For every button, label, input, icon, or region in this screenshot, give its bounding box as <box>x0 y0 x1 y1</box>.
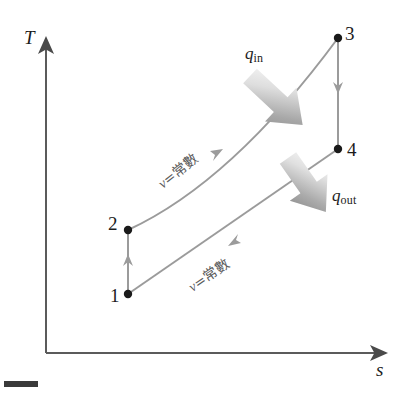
cycle-paths <box>128 38 338 294</box>
caption-rule <box>4 381 38 387</box>
q-out-label: qout <box>332 187 356 204</box>
state-point-1 <box>124 290 132 298</box>
q-out-subscript: out <box>341 193 357 207</box>
q-in-subscript: in <box>254 51 264 65</box>
state-point-3 <box>334 34 342 42</box>
q-in-symbol: q <box>245 44 254 63</box>
state-label-2: 2 <box>108 214 118 233</box>
state-point-2 <box>124 226 132 234</box>
q-in-label: qin <box>245 45 263 62</box>
state-label-4: 4 <box>347 140 357 159</box>
q-in-arrow <box>234 59 318 142</box>
entropy-axis-label: s <box>376 360 383 379</box>
state-label-1: 1 <box>110 286 120 305</box>
ts-diagram-figure: T s 1 2 3 4 qin qout v=常數 v=常數 <box>0 0 402 394</box>
arrowhead-4-to-1 <box>228 234 241 246</box>
temperature-axis-label: T <box>24 28 35 47</box>
q-out-symbol: q <box>332 186 341 205</box>
state-label-3: 3 <box>345 24 355 43</box>
state-point-4 <box>334 145 342 153</box>
arrowhead-2-to-3 <box>210 149 223 161</box>
state-points <box>124 34 342 298</box>
